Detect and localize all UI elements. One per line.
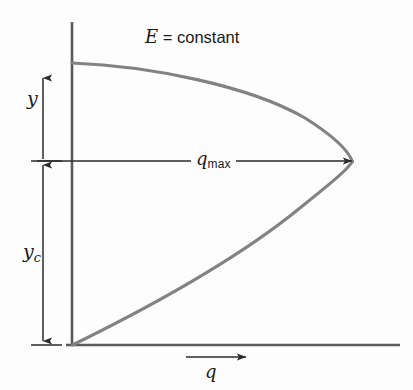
constant-energy-curve-lower-branch <box>73 162 353 346</box>
energy-value: constant <box>177 28 239 46</box>
constant-energy-curve-group <box>72 63 353 345</box>
q-axis-direction-label: q <box>205 363 217 381</box>
figure-canvas <box>0 0 413 390</box>
qmax-subscript: max <box>208 157 231 171</box>
yc-label: yc <box>22 240 42 266</box>
energy-constant-label: E = constant <box>145 28 239 46</box>
specific-energy-figure: E = constant qmax y yc q <box>0 0 413 390</box>
qmax-label: qmax <box>191 150 236 170</box>
energy-relation: = <box>158 28 177 46</box>
yc-base-symbol: y <box>23 240 34 262</box>
axes-group <box>66 22 400 346</box>
y-axis-direction-label: y <box>27 89 38 108</box>
energy-symbol: E <box>145 26 158 47</box>
constant-energy-curve-upper-branch <box>72 63 353 162</box>
yc-subscript: c <box>34 250 41 265</box>
qmax-base-symbol: q <box>196 148 208 169</box>
